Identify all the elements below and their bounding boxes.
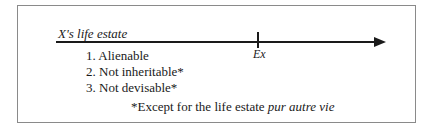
footnote: *Except for the life estate pur autre vi… bbox=[131, 99, 334, 115]
list-item: 2. Not inheritable* bbox=[86, 64, 184, 80]
event-label: Ex bbox=[253, 47, 266, 62]
footnote-emphasis: pur autre vie bbox=[268, 99, 335, 114]
arrowhead-icon bbox=[374, 37, 386, 47]
footnote-text: *Except for the life estate bbox=[131, 99, 268, 114]
list-item: 3. Not devisable* bbox=[86, 80, 184, 96]
list-item: 1. Alienable bbox=[86, 48, 184, 64]
characteristics-list: 1. Alienable 2. Not inheritable* 3. Not … bbox=[86, 48, 184, 96]
